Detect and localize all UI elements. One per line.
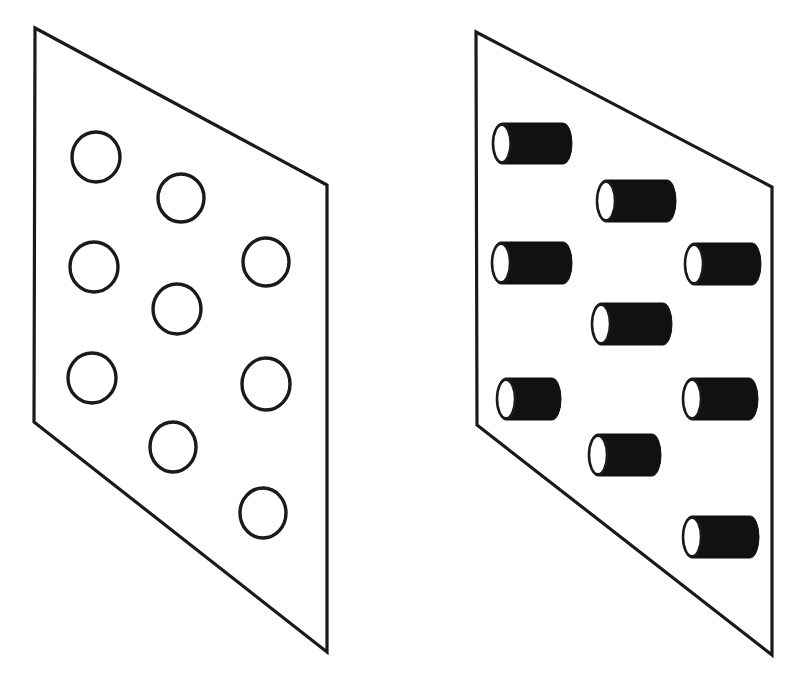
circle-7: [150, 422, 196, 472]
cylinder-6: [497, 378, 561, 420]
circle-2: [158, 174, 204, 222]
cylinder-4-front-face: [685, 245, 703, 284]
cylinder-1: [493, 123, 572, 164]
cylinder-2: [597, 180, 676, 222]
cylinder-4: [685, 243, 761, 285]
cylinder-2-front-face: [597, 182, 615, 221]
cylinder-3: [492, 242, 572, 284]
cylinder-7: [683, 378, 758, 420]
figure-container: [0, 0, 798, 683]
cylinder-6-front-face: [497, 380, 515, 419]
circle-1: [72, 132, 120, 182]
circle-4: [153, 284, 201, 334]
cylinder-1-front-face: [493, 125, 511, 163]
cylinder-8: [589, 434, 661, 476]
cylinder-9-front-face: [683, 518, 701, 557]
circle-8: [242, 358, 290, 410]
cylinder-7-front-face: [683, 380, 701, 419]
circle-6: [68, 353, 116, 403]
circle-9: [240, 488, 286, 538]
cylinder-9: [683, 516, 759, 558]
cylinder-3-front-face: [492, 244, 510, 283]
cylinder-5-front-face: [592, 305, 610, 344]
cylinder-5: [592, 303, 672, 345]
cylinder-8-front-face: [589, 436, 607, 475]
figure-svg: [0, 0, 798, 683]
circle-3: [70, 242, 118, 292]
circle-5: [243, 238, 289, 286]
